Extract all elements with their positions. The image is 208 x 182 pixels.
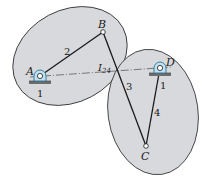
label-c: C [141,150,150,163]
label-link-2: 2 [64,46,70,57]
label-a: A [25,65,34,78]
label-link-3: 3 [126,81,132,92]
label-link-4: 4 [154,107,160,118]
label-b: B [97,18,106,31]
label-link-1-left: 1 [37,88,43,99]
label-d: D [165,56,175,69]
joint-c [144,144,149,149]
label-link-1-right: 1 [160,80,166,91]
linkage-diagram: A B C D I24 1 1 2 3 4 [0,0,208,182]
